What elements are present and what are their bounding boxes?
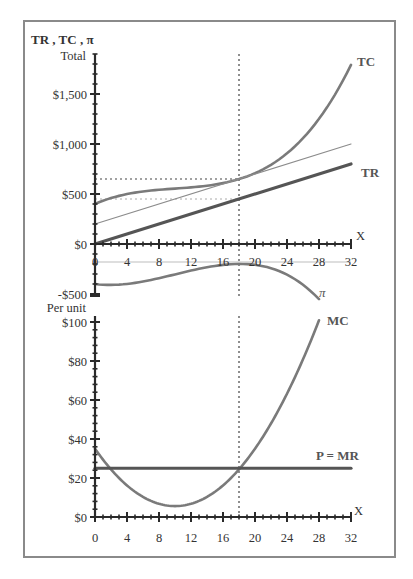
x-tick-label: 24	[281, 531, 294, 545]
bottom-series	[95, 320, 351, 506]
y-tick-label: $20	[68, 472, 87, 486]
tr-curve-label: TR	[361, 165, 380, 180]
chart-canvas: $1,500$1,000$500$0-$500048121620242832 T…	[0, 0, 413, 579]
top-y-axis-title: TR , TC , π	[31, 32, 94, 47]
x-tick-label: 24	[281, 255, 294, 269]
x-tick-label: 4	[124, 531, 131, 545]
x-tick-label: 20	[249, 255, 262, 269]
y-tick-label: $0	[75, 238, 88, 252]
p-mr-line-label: P = MR	[316, 448, 359, 463]
y-tick-label: $500	[62, 188, 87, 202]
top-x-axis-title: X	[356, 229, 365, 243]
y-tick-label: -$500	[58, 288, 87, 302]
chart-figure: $1,500$1,000$500$0-$500048121620242832 T…	[0, 0, 413, 579]
bottom-x-axis-title: X	[354, 504, 363, 518]
x-tick-label: 16	[217, 531, 230, 545]
y-tick-label: $60	[68, 394, 87, 408]
x-tick-label: 32	[345, 531, 358, 545]
x-tick-label: 8	[156, 531, 162, 545]
x-tick-label: 20	[249, 531, 262, 545]
tc-curve-label: TC	[357, 54, 375, 69]
y-tick-label: $100	[62, 316, 87, 330]
top-y-axis-subtitle: Total	[60, 49, 86, 63]
series-mc-curve	[95, 320, 319, 506]
bottom-y-axis-title: Per unit	[47, 301, 87, 315]
x-tick-label: 8	[156, 255, 162, 269]
y-tick-label: $0	[75, 511, 88, 525]
x-tick-label: 12	[185, 531, 198, 545]
total-panel: $1,500$1,000$500$0-$500048121620242832 T…	[31, 32, 380, 302]
bottom-axes: $100$80$60$40$20$0048121620242832	[62, 316, 357, 546]
x-tick-label: 0	[92, 255, 98, 269]
series-tc-curve	[95, 65, 351, 204]
per-unit-panel: $100$80$60$40$20$0048121620242832 Per un…	[47, 301, 363, 545]
y-tick-label: $80	[68, 355, 87, 369]
y-tick-label: $40	[68, 433, 87, 447]
x-tick-label: 32	[345, 255, 358, 269]
x-tick-label: 4	[124, 255, 131, 269]
x-tick-label: 28	[313, 255, 326, 269]
series-tr-curve	[95, 164, 351, 244]
y-tick-label: $1,500	[53, 88, 87, 102]
x-tick-label: 0	[92, 531, 98, 545]
x-tick-label: 28	[313, 531, 326, 545]
series-iso-profit-line-tr-200--curve	[95, 144, 351, 224]
x-tick-label: 12	[185, 255, 198, 269]
mc-curve-label: MC	[327, 313, 349, 328]
series---curve	[95, 264, 319, 299]
y-tick-label: $1,000	[53, 138, 87, 152]
x-tick-label: 16	[217, 255, 230, 269]
profit-curve-label: π	[319, 285, 326, 300]
